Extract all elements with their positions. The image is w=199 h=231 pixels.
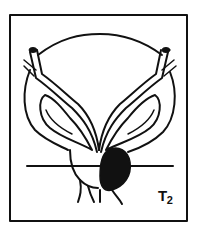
bladder-outline <box>38 34 162 55</box>
left-vas-end <box>29 48 37 53</box>
bladder-right-wall <box>128 72 175 152</box>
tumor-mass <box>100 148 130 190</box>
diagram-figure: T2 <box>0 0 199 231</box>
right-vas-end <box>162 48 170 53</box>
tumor-stage-label: T2 <box>158 188 172 206</box>
prostate-left-lobe <box>70 150 98 188</box>
